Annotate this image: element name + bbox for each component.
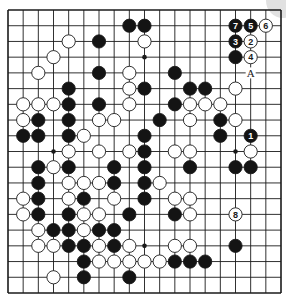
- move-number-label: 4: [248, 52, 253, 62]
- white-stone-icon: [168, 145, 181, 158]
- black-stone-icon: [47, 224, 60, 237]
- white-stone: [108, 192, 121, 205]
- white-stone: [123, 82, 136, 95]
- black-stone-icon: [123, 271, 136, 284]
- white-stone: [183, 192, 196, 205]
- white-stone-icon: [32, 239, 45, 252]
- black-stone: [77, 192, 90, 205]
- white-stone-icon: [183, 145, 196, 158]
- white-stone-icon: [123, 255, 136, 268]
- black-stone-icon: [62, 82, 75, 95]
- black-stone: [92, 35, 105, 48]
- black-stone-icon: [153, 113, 166, 126]
- white-stone: [62, 145, 75, 158]
- white-stone-icon: [199, 98, 212, 111]
- black-stone-icon: [17, 129, 30, 142]
- black-stone-icon: [138, 176, 151, 189]
- black-stone-icon: [214, 129, 227, 142]
- black-stone: [77, 239, 90, 252]
- white-stone: 6: [259, 19, 272, 32]
- black-stone: [62, 82, 75, 95]
- black-stone: [62, 98, 75, 111]
- black-stone: 5: [244, 19, 257, 32]
- black-stone: [153, 113, 166, 126]
- black-stone: 1: [244, 129, 257, 142]
- white-stone: [62, 35, 75, 48]
- black-stone-icon: [138, 129, 151, 142]
- black-stone-icon: [77, 192, 90, 205]
- white-stone: [17, 192, 30, 205]
- white-stone-icon: [92, 239, 105, 252]
- black-stone: [62, 208, 75, 221]
- white-stone: [108, 255, 121, 268]
- white-stone: [47, 161, 60, 174]
- black-stone-icon: [183, 82, 196, 95]
- white-stone: [214, 98, 227, 111]
- white-stone-icon: [77, 129, 90, 142]
- black-stone-icon: [77, 239, 90, 252]
- black-stone-icon: [92, 66, 105, 79]
- black-stone-icon: [32, 161, 45, 174]
- white-stone: [47, 271, 60, 284]
- black-stone: [92, 98, 105, 111]
- white-stone-icon: [32, 66, 45, 79]
- black-stone: [108, 239, 121, 252]
- white-stone-icon: [77, 176, 90, 189]
- white-stone: [77, 129, 90, 142]
- black-stone: [138, 176, 151, 189]
- white-stone-icon: [92, 208, 105, 221]
- black-stone: [123, 271, 136, 284]
- white-stone: [17, 98, 30, 111]
- white-stone: [92, 145, 105, 158]
- white-stone: [77, 208, 90, 221]
- star-point-icon: [233, 149, 238, 154]
- white-stone-icon: [183, 208, 196, 221]
- move-number-label: 2: [248, 37, 253, 47]
- white-stone: [17, 113, 30, 126]
- white-stone: [92, 113, 105, 126]
- black-stone: [62, 161, 75, 174]
- white-stone: [92, 208, 105, 221]
- white-stone-icon: [62, 176, 75, 189]
- white-stone-icon: [138, 255, 151, 268]
- black-stone: [32, 192, 45, 205]
- white-stone: 4: [244, 51, 257, 64]
- black-stone-icon: [168, 66, 181, 79]
- white-stone: 8: [229, 208, 242, 221]
- white-stone-icon: [183, 113, 196, 126]
- black-stone-icon: [92, 98, 105, 111]
- black-stone: [138, 161, 151, 174]
- black-stone-icon: [199, 255, 212, 268]
- white-stone-icon: [32, 224, 45, 237]
- black-stone: [138, 145, 151, 158]
- black-stone: [138, 192, 151, 205]
- white-stone: [183, 239, 196, 252]
- black-stone: [183, 82, 196, 95]
- black-stone: [168, 66, 181, 79]
- black-stone-icon: [108, 224, 121, 237]
- white-stone-icon: [138, 35, 151, 48]
- white-stone-icon: [123, 98, 136, 111]
- black-stone: [168, 98, 181, 111]
- black-stone-icon: [62, 98, 75, 111]
- black-stone: [62, 239, 75, 252]
- black-stone-icon: [108, 239, 121, 252]
- black-stone-icon: [138, 19, 151, 32]
- white-stone: [123, 98, 136, 111]
- black-stone: [62, 224, 75, 237]
- black-stone-icon: [32, 129, 45, 142]
- black-stone-icon: [77, 271, 90, 284]
- white-stone: [32, 66, 45, 79]
- white-stone-icon: [153, 176, 166, 189]
- black-stone: [92, 66, 105, 79]
- black-stone: 7: [229, 19, 242, 32]
- white-stone-icon: [153, 255, 166, 268]
- white-stone: [123, 66, 136, 79]
- black-stone-icon: [168, 255, 181, 268]
- black-stone-icon: [62, 129, 75, 142]
- black-stone: [77, 255, 90, 268]
- black-stone-icon: [108, 176, 121, 189]
- black-stone-icon: [32, 176, 45, 189]
- white-stone-icon: [92, 176, 105, 189]
- star-point-icon: [51, 149, 56, 154]
